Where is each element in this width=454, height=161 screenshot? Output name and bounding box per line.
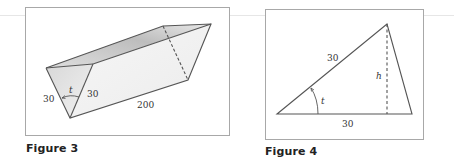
- label-angle-t: t: [69, 85, 73, 95]
- label-hypotenuse-30: 30: [327, 53, 339, 63]
- label-left-30: 30: [43, 94, 55, 104]
- label-length-200: 200: [137, 100, 154, 110]
- figures-canvas: 30 30 t 200 30 t h 30: [0, 0, 454, 161]
- label-right-30: 30: [87, 89, 99, 99]
- label-base-30: 30: [342, 119, 354, 129]
- triangle-outline: [277, 24, 412, 114]
- angle-t-arc: [311, 88, 318, 114]
- label-angle-t: t: [321, 96, 325, 106]
- triangle-diagram: 30 t h 30: [277, 24, 412, 129]
- triangular-prism-diagram: 30 30 t 200: [43, 24, 211, 118]
- figure-4-caption: Figure 4: [265, 145, 317, 158]
- figure-3-caption: Figure 3: [26, 142, 78, 155]
- label-height-h: h: [376, 71, 382, 81]
